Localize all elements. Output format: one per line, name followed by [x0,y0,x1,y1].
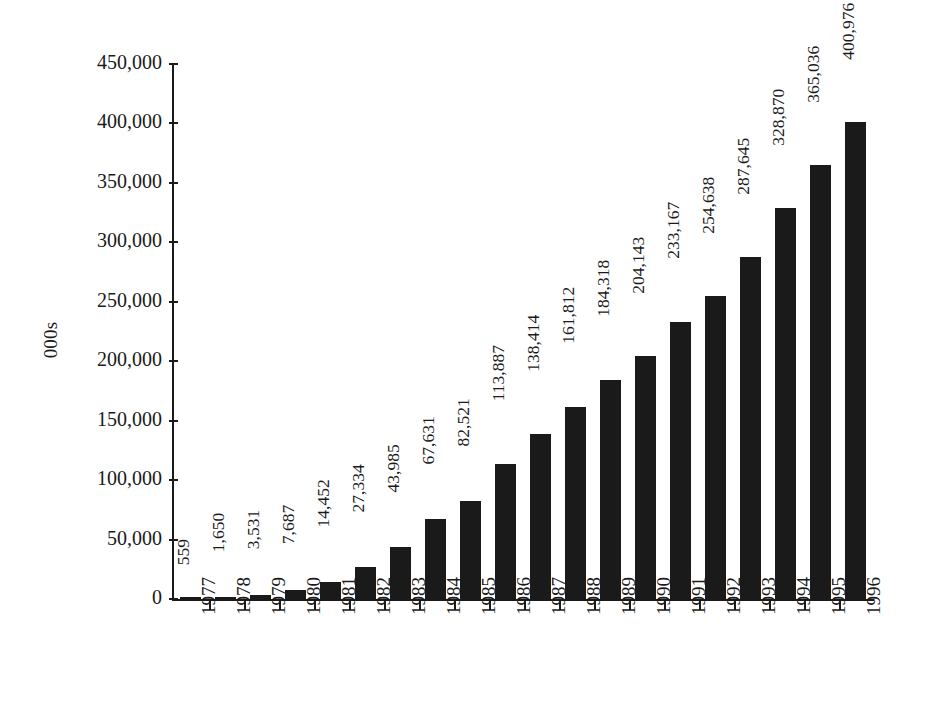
bar-group: 113,887 [489,64,524,599]
x-axis-tick-mark [419,601,421,610]
x-axis-tick-mark [804,601,806,610]
bar-value-label: 82,521 [454,399,472,447]
bar-group: 254,638 [699,64,734,599]
bar-group: 204,143 [629,64,664,599]
bar-value-label: 43,985 [384,444,402,492]
bar-group: 287,645 [734,64,769,599]
x-axis-tick-mark [244,601,246,610]
x-axis-tick-mark [384,601,386,610]
y-axis-tick-label: 0 [44,586,162,609]
bar-group: 3,531 [244,64,279,599]
x-axis-category-label: 1983 [409,577,428,615]
bar-value-label: 287,645 [734,137,752,194]
x-axis-tick-mark [209,601,211,610]
y-axis-tick-label: 400,000 [44,110,162,133]
x-axis-category-label: 1985 [479,577,498,615]
bar [565,407,586,599]
bar-value-label: 161,812 [559,287,577,344]
bar-group: 161,812 [559,64,594,599]
bar [845,122,866,599]
bar-value-label: 67,631 [419,416,437,464]
bar-value-label: 184,318 [594,260,612,317]
x-axis-tick-mark [839,601,841,610]
bar [530,434,551,599]
bar-value-label: 14,452 [314,480,332,528]
bar-value-label: 328,870 [769,88,787,145]
bar-chart: 000s 050,000100,000150,000200,000250,000… [0,0,933,706]
x-axis-tick-mark [699,601,701,610]
bar-value-label: 1,650 [209,512,227,551]
x-axis-category-label: 1988 [584,577,603,615]
x-axis-tick-mark [664,601,666,610]
bar [740,257,761,599]
bar-value-label: 27,334 [349,464,367,512]
y-axis-tick-label: 200,000 [44,348,162,371]
y-axis-tick-label: 250,000 [44,289,162,312]
plot-area: 5591,6503,5317,68714,45227,33443,98567,6… [174,64,874,599]
x-axis-category-label: 1992 [724,577,743,615]
x-axis-category-label: 1978 [234,577,253,615]
x-axis-tick-mark [314,601,316,610]
x-axis-category-label: 1980 [304,577,323,615]
bar-group: 14,452 [314,64,349,599]
x-axis-category-label: 1994 [794,577,813,615]
y-axis-tick-label: 100,000 [44,467,162,490]
x-axis-tick-mark [279,601,281,610]
x-axis-category-label: 1990 [654,577,673,615]
bar-group: 184,318 [594,64,629,599]
y-axis-tick-label: 350,000 [44,170,162,193]
x-axis-category-label: 1995 [829,577,848,615]
bar-group: 7,687 [279,64,314,599]
x-axis-category-label: 1989 [619,577,638,615]
bar [635,356,656,599]
x-axis-tick-mark [489,601,491,610]
bar-group: 27,334 [349,64,384,599]
bar-group: 233,167 [664,64,699,599]
x-axis-category-label: 1977 [199,577,218,615]
x-axis-category-label: 1993 [759,577,778,615]
bar [670,322,691,599]
x-axis-tick-mark [734,601,736,610]
bar [810,165,831,599]
bar-group: 328,870 [769,64,804,599]
bar-value-label: 113,887 [489,345,507,401]
y-axis-tick-label: 150,000 [44,408,162,431]
x-axis-tick-mark [454,601,456,610]
y-axis-tick-label: 50,000 [44,527,162,550]
x-axis-category-label: 1981 [339,577,358,615]
y-axis-tick-label: 450,000 [44,51,162,74]
bar-value-label: 138,414 [524,315,542,372]
bar-group: 559 [174,64,209,599]
bar [600,380,621,599]
x-axis-category-label: 1991 [689,577,708,615]
bar-group: 1,650 [209,64,244,599]
x-axis-category-label: 1984 [444,577,463,615]
bar [705,296,726,599]
bar-group: 138,414 [524,64,559,599]
x-axis-tick-mark [769,601,771,610]
x-axis-tick-mark [559,601,561,610]
x-axis-category-label: 1987 [549,577,568,615]
bar-value-label: 233,167 [664,202,682,259]
bar-group: 43,985 [384,64,419,599]
bar-group: 67,631 [419,64,454,599]
bar-value-label: 559 [174,539,192,565]
y-axis-tick-label: 300,000 [44,229,162,252]
x-axis-category-label: 1979 [269,577,288,615]
bar-group: 82,521 [454,64,489,599]
bar-value-label: 3,531 [244,510,262,549]
bar-group: 400,976 [839,64,874,599]
bar-value-label: 400,976 [839,3,857,60]
bar-value-label: 365,036 [804,45,822,102]
bar-value-label: 204,143 [629,237,647,294]
x-axis-tick-mark [524,601,526,610]
x-axis-ticks: 1977197819791980198119821983198419851986… [174,601,874,706]
bar-group: 365,036 [804,64,839,599]
x-axis-category-label: 1982 [374,577,393,615]
x-axis-tick-mark [594,601,596,610]
bar-value-label: 254,638 [699,177,717,234]
x-axis-category-label: 1986 [514,577,533,615]
x-axis-tick-mark [629,601,631,610]
x-axis-category-label: 1996 [864,577,883,615]
bar [775,208,796,599]
